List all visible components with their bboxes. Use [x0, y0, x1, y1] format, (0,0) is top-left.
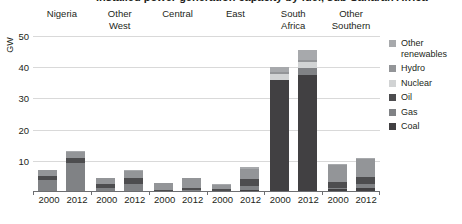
bar-segment-gas: [298, 68, 317, 75]
bar-segment-gas: [66, 163, 85, 192]
legend-item-gas[interactable]: Gas: [389, 107, 462, 118]
y-tick-label-30: 30: [18, 93, 29, 104]
x-tick-label-2000-5: 2000: [328, 194, 347, 210]
bar-nigeria-2012[interactable]: [66, 151, 85, 192]
chart-root: Installed power generation capacity by f…: [0, 0, 462, 224]
y-tick-label-20: 20: [18, 124, 29, 135]
legend-swatch-gas: [389, 109, 396, 116]
group-header-other-west: OtherWest: [91, 8, 149, 36]
bar-group-other-southern: [322, 36, 380, 192]
group-header-nigeria: Nigeria: [33, 8, 91, 36]
legend-label-coal: Coal: [401, 121, 420, 132]
x-tick-label-2000-0: 2000: [38, 194, 57, 210]
group-header-east: East: [206, 8, 264, 36]
x-tick-label-2000-3: 2000: [212, 194, 231, 210]
bar-segment-gas: [124, 184, 143, 191]
y-tick-label-50: 50: [18, 31, 29, 42]
plot-area: [33, 36, 380, 192]
legend-item-nuclear[interactable]: Nuclear: [389, 78, 462, 89]
legend-label-gas: Gas: [401, 107, 418, 118]
bar-segment-other-renewables: [298, 50, 317, 60]
y-tick-label-10: 10: [18, 155, 29, 166]
bar-nigeria-2000[interactable]: [38, 170, 57, 192]
bar-other-southern-2012[interactable]: [356, 158, 375, 192]
group-header-south-africa-line2: Africa: [281, 20, 305, 31]
legend-swatch-other-renewables: [389, 40, 396, 47]
legend-item-hydro[interactable]: Hydro: [389, 63, 462, 74]
bar-segment-hydro: [182, 178, 201, 188]
y-axis-tick-labels: 1020304050: [0, 36, 33, 192]
bar-group-nigeria: [33, 36, 91, 192]
x-tick-label-2012-4: 2012: [298, 194, 317, 210]
group-header-other-west-line2: West: [109, 20, 130, 31]
legend-label-nuclear: Nuclear: [401, 78, 432, 89]
x-label-group-0: 20002012: [33, 194, 91, 210]
group-header-other-southern-line2: Southern: [332, 20, 371, 31]
x-label-group-4: 20002012: [264, 194, 322, 210]
x-label-group-3: 20002012: [206, 194, 264, 210]
x-axis-labels: 2000201220002012200020122000201220002012…: [33, 194, 380, 210]
bar-other-west-2000[interactable]: [96, 178, 115, 192]
x-tick-label-2012-3: 2012: [240, 194, 259, 210]
x-label-group-5: 20002012: [322, 194, 380, 210]
x-tick-label-2012-2: 2012: [182, 194, 201, 210]
bar-group-central: [149, 36, 207, 192]
bar-groups: [33, 36, 380, 192]
legend-swatch-oil: [389, 94, 396, 101]
group-header-south-africa-line1: South: [281, 8, 306, 19]
legend-swatch-nuclear: [389, 80, 396, 87]
legend-item-other-renewables[interactable]: Other renewables: [389, 38, 462, 59]
bar-central-2012[interactable]: [182, 178, 201, 192]
bar-group-other-west: [91, 36, 149, 192]
x-tick-label-2000-2: 2000: [154, 194, 173, 210]
bar-segment-hydro: [328, 165, 347, 182]
group-header-central: Central: [149, 8, 207, 36]
legend-label-oil: Oil: [401, 92, 412, 103]
bar-segment-oil: [356, 177, 375, 184]
legend-label-other-renewables: Other renewables: [401, 38, 462, 59]
bar-other-west-2012[interactable]: [124, 170, 143, 192]
group-header-south-africa: SouthAfrica: [264, 8, 322, 36]
bar-south-africa-2012[interactable]: [298, 50, 317, 192]
bar-east-2012[interactable]: [240, 167, 259, 192]
legend-item-oil[interactable]: Oil: [389, 92, 462, 103]
x-label-group-1: 20002012: [91, 194, 149, 210]
bar-group-east: [206, 36, 264, 192]
bar-segment-hydro: [124, 171, 143, 178]
bar-segment-coal: [270, 80, 289, 192]
x-tick-label-2012-1: 2012: [124, 194, 143, 210]
bar-group-south-africa: [264, 36, 322, 192]
x-tick-label-2012-5: 2012: [356, 194, 375, 210]
legend-swatch-coal: [389, 123, 396, 130]
bar-segment-hydro: [240, 169, 259, 179]
bar-segment-oil: [240, 179, 259, 186]
x-tick-label-2000-4: 2000: [270, 194, 289, 210]
legend: Other renewablesHydroNuclearOilGasCoal: [389, 38, 462, 136]
group-header-other-southern-line1: Other: [339, 8, 363, 19]
group-header-row: Nigeria OtherWest Central East SouthAfri…: [33, 8, 380, 36]
group-header-other-southern: OtherSouthern: [322, 8, 380, 36]
legend-item-coal[interactable]: Coal: [389, 121, 462, 132]
bar-segment-hydro: [154, 183, 173, 190]
bar-south-africa-2000[interactable]: [270, 67, 289, 192]
page-title: Installed power generation capacity by f…: [96, 0, 428, 3]
bar-segment-coal: [298, 75, 317, 192]
y-tick-label-40: 40: [18, 62, 29, 73]
bar-other-southern-2000[interactable]: [328, 164, 347, 192]
chart-title-clipped: Installed power generation capacity by f…: [0, 0, 462, 7]
legend-swatch-hydro: [389, 65, 396, 72]
bar-segment-hydro: [356, 159, 375, 177]
group-header-other-west-line1: Other: [108, 8, 132, 19]
x-tick-label-2000-1: 2000: [96, 194, 115, 210]
x-tick-label-2012-0: 2012: [66, 194, 85, 210]
x-label-group-2: 20002012: [149, 194, 207, 210]
legend-label-hydro: Hydro: [401, 63, 425, 74]
